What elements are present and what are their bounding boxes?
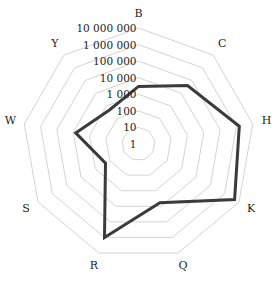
grid-ring	[41, 45, 237, 238]
axis-label-h: H	[262, 114, 272, 127]
axis-label-s: S	[22, 202, 30, 215]
tick-label: 1 000	[106, 88, 136, 100]
tick-label: 1 000 000	[83, 39, 136, 51]
grid-rings	[24, 28, 252, 253]
radar-chart: 1101001 00010 000100 0001 000 00010 000 …	[0, 0, 276, 285]
grid-ring	[106, 111, 171, 175]
tick-label: 100	[116, 105, 136, 117]
axis-label-r: R	[90, 259, 99, 272]
tick-labels: 1101001 00010 000100 0001 000 00010 000 …	[76, 22, 136, 150]
tick-label: 100 000	[93, 55, 136, 67]
tick-label: 10	[123, 121, 136, 133]
axis-labels: BCHKQRSWY	[5, 7, 271, 272]
tick-label: 10 000 000	[76, 22, 136, 34]
grid-ring	[73, 78, 204, 207]
axis-label-w: W	[5, 114, 17, 127]
axis-label-b: B	[134, 7, 142, 20]
axis-label-q: Q	[178, 259, 187, 272]
tick-label: 1	[130, 138, 137, 150]
axis-label-k: K	[247, 202, 256, 215]
tick-label: 10 000	[100, 72, 137, 84]
axis-label-c: C	[218, 37, 226, 50]
axis-label-y: Y	[50, 37, 59, 50]
